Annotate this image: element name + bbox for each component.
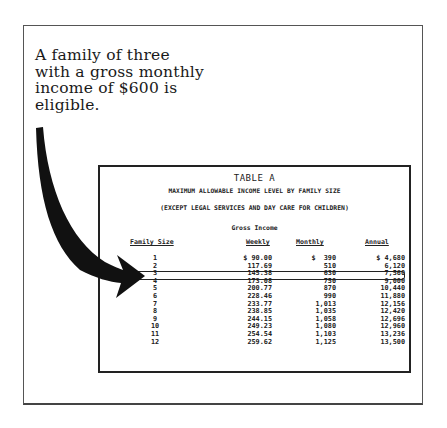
curved-arrow-icon — [0, 0, 447, 428]
